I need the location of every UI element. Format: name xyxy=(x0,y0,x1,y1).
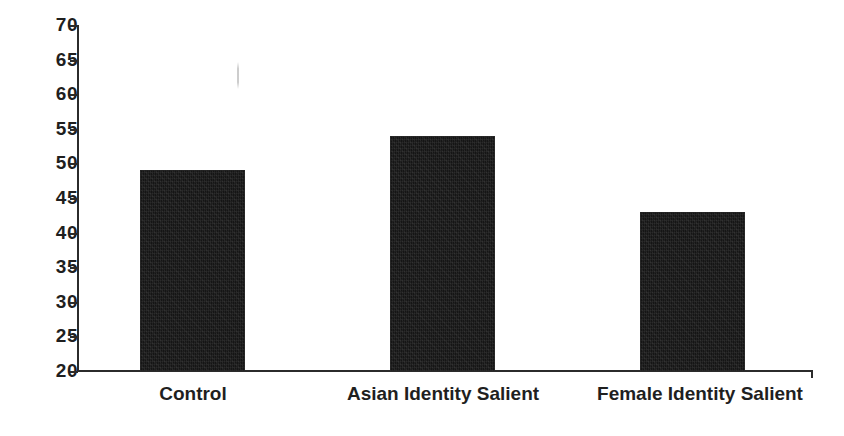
y-axis-tick-mark xyxy=(70,198,78,200)
scan-artifact-mark xyxy=(237,62,239,89)
x-axis-end-cap xyxy=(811,370,813,378)
x-axis-label-female-identity-salient: Female Identity Salient xyxy=(588,384,812,403)
bar-asian-identity-salient xyxy=(390,136,495,371)
y-axis-tick-mark xyxy=(70,302,78,304)
y-axis-tick-mark xyxy=(70,371,78,373)
y-axis-tick-mark xyxy=(70,336,78,338)
y-axis-tick-mark xyxy=(70,94,78,96)
bar-control xyxy=(140,170,245,371)
bar-chart: 7065605550454035302520 ControlAsian Iden… xyxy=(0,0,844,436)
y-axis-tick-mark xyxy=(70,60,78,62)
y-axis-tick-mark xyxy=(70,163,78,165)
x-axis-label-control: Control xyxy=(115,384,271,403)
y-axis-tick-mark xyxy=(70,25,78,27)
bar-female-identity-salient xyxy=(640,212,745,371)
y-axis-tick-mark xyxy=(70,267,78,269)
y-axis-tick-mark xyxy=(70,129,78,131)
y-axis-tick-mark xyxy=(70,233,78,235)
x-axis-label-asian-identity-salient: Asian Identity Salient xyxy=(340,384,546,403)
